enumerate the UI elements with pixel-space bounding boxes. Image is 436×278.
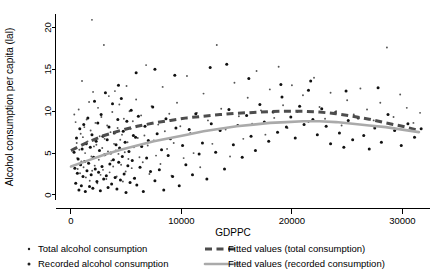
data-point — [140, 114, 142, 116]
data-point — [100, 174, 102, 176]
y-tick-label: 20 — [42, 22, 53, 33]
data-point — [184, 163, 187, 166]
data-point — [76, 172, 79, 175]
data-point — [94, 168, 97, 171]
scatter-plot: 05101520 0100002000030000 Alcohol consum… — [0, 0, 436, 278]
data-point — [121, 155, 124, 158]
data-point — [126, 164, 129, 167]
data-point — [142, 190, 145, 193]
data-point — [171, 175, 174, 178]
legend-item[interactable]: Fitted values (recorded consumption) — [205, 258, 385, 269]
chart-figure: 05101520 0100002000030000 Alcohol consum… — [0, 0, 436, 278]
data-point — [86, 116, 89, 119]
data-point — [115, 188, 118, 191]
y-tick-label: 0 — [42, 192, 53, 197]
data-point — [162, 86, 164, 88]
data-point — [149, 170, 152, 173]
data-point — [135, 99, 137, 101]
data-point — [104, 138, 106, 140]
data-point — [82, 136, 84, 138]
data-point — [115, 143, 118, 146]
data-point — [186, 75, 188, 77]
data-point — [229, 155, 231, 157]
data-point — [211, 143, 213, 145]
data-point — [254, 149, 257, 152]
x-tick-label: 20000 — [279, 215, 305, 226]
data-point — [110, 131, 112, 133]
data-point — [313, 77, 315, 79]
data-point — [120, 164, 122, 166]
data-point — [234, 82, 236, 84]
data-point — [309, 80, 312, 83]
data-point — [256, 70, 258, 72]
data-point — [209, 66, 212, 69]
data-point — [73, 167, 76, 170]
fitted-curve-solid — [71, 121, 419, 166]
data-point — [137, 137, 139, 139]
data-point — [247, 97, 249, 99]
data-point — [285, 126, 288, 129]
data-point — [74, 182, 77, 185]
y-axis-label: Alcohol consumption per capita (lal) — [4, 28, 15, 186]
x-tick-label: 0 — [68, 215, 73, 226]
data-point — [329, 142, 332, 145]
data-point — [131, 167, 133, 169]
data-point — [168, 113, 170, 115]
data-point — [131, 159, 134, 162]
data-point — [153, 179, 156, 182]
data-point — [379, 102, 381, 104]
data-point — [359, 88, 361, 90]
x-axis-label: GDPPC — [215, 227, 251, 238]
data-point — [345, 90, 348, 93]
data-point — [225, 63, 228, 66]
data-point — [119, 178, 122, 181]
data-point — [393, 116, 395, 118]
data-point — [214, 151, 217, 154]
data-point — [124, 191, 127, 194]
data-point — [276, 131, 279, 134]
data-point — [419, 112, 421, 114]
data-point — [139, 156, 141, 158]
data-point — [78, 109, 80, 111]
data-point — [139, 166, 142, 169]
data-point — [193, 152, 195, 154]
data-point — [110, 183, 113, 186]
data-point — [85, 169, 88, 172]
data-point — [264, 134, 266, 136]
data-point — [102, 178, 105, 181]
data-point — [160, 148, 163, 151]
data-point — [238, 115, 240, 117]
data-point — [104, 91, 107, 94]
data-point — [82, 123, 85, 126]
legend-item[interactable]: Recorded alcohol consumption — [28, 258, 169, 269]
data-point — [81, 147, 84, 150]
data-point — [176, 102, 178, 104]
data-point — [124, 141, 127, 144]
data-point — [267, 140, 270, 143]
data-point — [179, 125, 181, 127]
data-point — [173, 74, 176, 77]
series-small-dot — [73, 19, 421, 184]
data-point — [148, 173, 150, 175]
legend-label: Recorded alcohol consumption — [38, 258, 168, 269]
data-point — [145, 157, 148, 160]
data-point — [167, 154, 170, 157]
data-point — [82, 175, 85, 178]
data-point — [125, 171, 127, 173]
data-point — [98, 149, 101, 152]
data-point — [78, 149, 80, 151]
legend-item[interactable]: Fitted values (total consumption) — [205, 243, 365, 254]
data-point — [97, 171, 100, 174]
x-axis-ticks: 0100002000030000 — [68, 209, 415, 227]
data-point — [126, 85, 128, 87]
data-point — [387, 113, 390, 116]
data-point — [258, 103, 261, 106]
legend-dot-icon — [28, 248, 30, 250]
legend-item[interactable]: Total alcohol consumption — [28, 243, 148, 254]
y-tick-label: 5 — [42, 150, 53, 155]
data-point — [406, 107, 408, 109]
data-point — [95, 122, 97, 124]
data-point — [362, 134, 365, 137]
data-point — [77, 188, 80, 191]
data-point — [223, 168, 226, 171]
